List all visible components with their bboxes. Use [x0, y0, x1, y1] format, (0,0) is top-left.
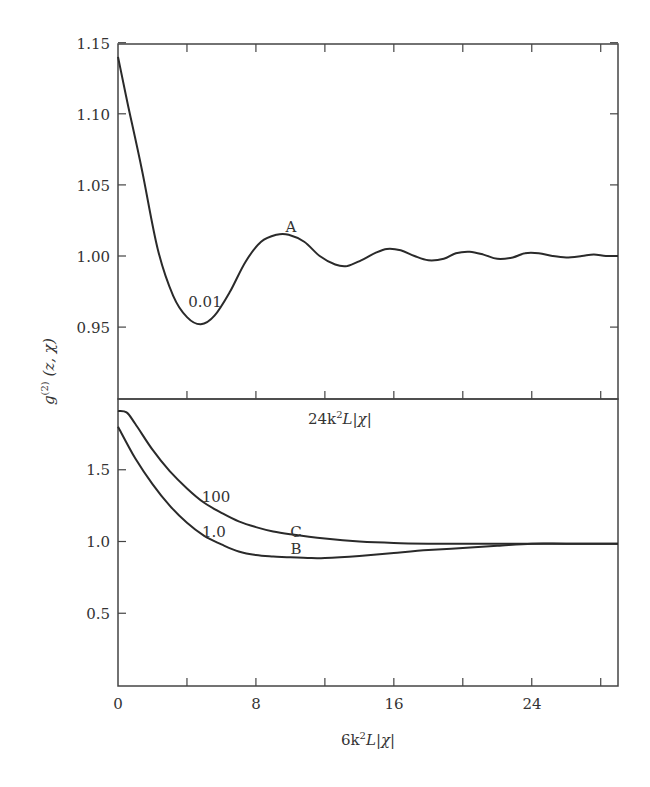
curve-b-label: B [290, 540, 301, 558]
curve-b-param-label: 1.0 [202, 523, 226, 541]
x-tick-label: 24 [522, 695, 541, 713]
curve-a-label: A [285, 218, 297, 236]
y-tick-label: 1.0 [86, 533, 110, 551]
top-plot-frame [118, 44, 618, 399]
top-y-tick-labels: 1.15 1.10 1.05 1.00 0.95 [77, 35, 110, 337]
curve-b-line [118, 427, 618, 559]
top-axis-title: 24k2L|χ| [308, 409, 372, 428]
curve-a-line [118, 57, 618, 324]
y-tick-label: 1.10 [77, 106, 110, 124]
curve-c-label: C [290, 523, 301, 541]
curve-c-param-label: 100 [202, 488, 231, 506]
axis-ticks [118, 43, 618, 686]
y-tick-label: 0.5 [86, 605, 110, 623]
x-tick-label: 8 [251, 695, 261, 713]
y-tick-label: 1.00 [77, 248, 110, 266]
curve-c-line [118, 411, 618, 544]
x-tick-label: 16 [384, 695, 403, 713]
x-axis-title: 6k2L|χ| [341, 730, 395, 749]
y-tick-label: 1.15 [77, 35, 110, 53]
chart-figure: 1.15 1.10 1.05 1.00 0.95 1.5 1.0 0.5 0 8… [0, 0, 650, 787]
y-tick-label: 1.5 [86, 461, 110, 479]
bottom-y-tick-labels: 1.5 1.0 0.5 [86, 461, 110, 623]
y-tick-label: 0.95 [77, 319, 110, 337]
x-tick-label: 0 [113, 695, 123, 713]
curve-a-param-label: 0.01 [188, 293, 221, 311]
x-tick-labels: 0 8 16 24 [113, 695, 541, 713]
y-tick-label: 1.05 [77, 177, 110, 195]
y-axis-title: g(2) (z, χ) [39, 338, 58, 405]
